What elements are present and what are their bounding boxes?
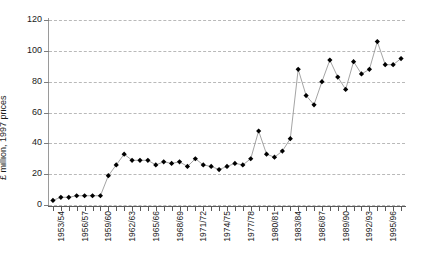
x-tick-mark	[330, 207, 331, 211]
x-tick-mark	[377, 207, 378, 211]
data-point	[66, 195, 71, 200]
data-point	[367, 67, 372, 72]
x-tick-mark	[187, 207, 188, 211]
data-point	[50, 198, 55, 203]
data-point	[82, 193, 87, 198]
data-point	[145, 158, 150, 163]
gridline-0	[49, 205, 405, 206]
x-tick-label-1989-90: 1989/90	[342, 211, 351, 242]
x-tick-mark	[314, 207, 315, 211]
x-tick-mark	[100, 207, 101, 211]
x-tick-mark	[195, 207, 196, 211]
x-tick-label-1977-78: 1977/78	[247, 211, 256, 242]
x-tick-mark	[93, 207, 94, 211]
x-tick-label-1974-75: 1974/75	[223, 211, 232, 242]
data-point	[74, 193, 79, 198]
x-tick-label-1971-72: 1971/72	[199, 211, 208, 242]
data-series	[49, 20, 405, 205]
data-point	[319, 79, 324, 84]
x-tick-mark	[164, 207, 165, 211]
data-point	[224, 164, 229, 169]
data-point	[232, 161, 237, 166]
y-tick-label-40: 40	[0, 138, 42, 147]
y-tick-label-0: 0	[0, 200, 42, 209]
x-tick-mark	[124, 207, 125, 211]
x-tick-label-1986-87: 1986/87	[318, 211, 327, 242]
data-point	[169, 161, 174, 166]
data-point	[153, 162, 158, 167]
plot-area	[49, 20, 405, 205]
data-point	[58, 195, 63, 200]
x-tick-mark	[338, 207, 339, 211]
data-point	[327, 57, 332, 62]
y-tick-label-60: 60	[0, 108, 42, 117]
y-tick-label-120: 120	[0, 15, 42, 24]
data-point	[137, 158, 142, 163]
y-tick-label-100: 100	[0, 46, 42, 55]
x-tick-mark	[140, 207, 141, 211]
data-point	[351, 59, 356, 64]
x-tick-label-1992-93: 1992/93	[365, 211, 374, 242]
x-tick-label-1995-96: 1995/96	[389, 211, 398, 242]
data-point	[375, 39, 380, 44]
x-tick-label-1953-54: 1953/54	[57, 211, 66, 242]
data-point	[288, 136, 293, 141]
data-point	[98, 193, 103, 198]
x-tick-label-1980-81: 1980/81	[271, 211, 280, 242]
x-tick-mark	[116, 207, 117, 211]
data-point	[256, 128, 261, 133]
x-tick-mark	[53, 207, 54, 211]
chart-container: £ million, 1997 prices 020406080100120 1…	[0, 0, 427, 275]
x-tick-label-1965-66: 1965/66	[152, 211, 161, 242]
x-tick-mark	[282, 207, 283, 211]
x-tick-label-1959-60: 1959/60	[104, 211, 113, 242]
data-point	[264, 152, 269, 157]
x-tick-mark	[77, 207, 78, 211]
data-point	[383, 62, 388, 67]
x-tick-label-1956-57: 1956/57	[81, 211, 90, 242]
data-point	[343, 87, 348, 92]
data-point	[177, 159, 182, 164]
x-tick-mark	[148, 207, 149, 211]
data-point	[209, 164, 214, 169]
x-tick-mark	[211, 207, 212, 211]
data-point	[216, 167, 221, 172]
x-tick-mark	[361, 207, 362, 211]
y-tick-label-80: 80	[0, 77, 42, 86]
x-tick-mark	[354, 207, 355, 211]
x-tick-label-1983-84: 1983/84	[294, 211, 303, 242]
data-point	[335, 74, 340, 79]
x-tick-mark	[235, 207, 236, 211]
x-tick-label-1962-63: 1962/63	[128, 211, 137, 242]
y-tick-label-20: 20	[0, 169, 42, 178]
x-tick-mark	[172, 207, 173, 211]
x-tick-mark	[290, 207, 291, 211]
x-tick-mark	[267, 207, 268, 211]
data-point	[90, 193, 95, 198]
x-tick-mark	[69, 207, 70, 211]
x-tick-mark	[401, 207, 402, 211]
x-tick-mark	[259, 207, 260, 211]
data-point	[296, 67, 301, 72]
x-tick-mark	[306, 207, 307, 211]
data-point	[161, 159, 166, 164]
x-tick-mark	[243, 207, 244, 211]
x-tick-mark	[385, 207, 386, 211]
x-tick-label-1968-69: 1968/69	[176, 211, 185, 242]
series-line	[53, 42, 401, 201]
data-point	[359, 71, 364, 76]
x-tick-mark	[219, 207, 220, 211]
